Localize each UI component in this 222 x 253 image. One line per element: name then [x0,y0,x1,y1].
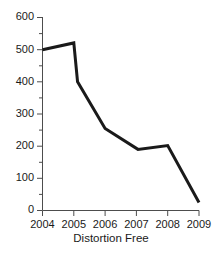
x-tick-label: 2007 [124,218,148,230]
y-tick-label: 600 [16,10,34,22]
x-axis-ticks [43,211,200,217]
y-tick-label: 100 [16,171,34,183]
line-chart: 600 500 400 300 200 100 0 2004 2005 2006… [0,0,222,253]
y-tick-label: 200 [16,139,34,151]
y-tick-label: 500 [16,43,34,55]
data-series-line [43,43,200,203]
x-tick-label: 2004 [30,218,54,230]
x-tick-label: 2009 [187,218,211,230]
x-tick-label: 2005 [62,218,86,230]
y-tick-label: 300 [16,107,34,119]
y-tick-label: 400 [16,75,34,87]
y-axis-tick-labels: 600 500 400 300 200 100 0 [16,10,34,215]
x-tick-label: 2008 [155,218,179,230]
x-axis-tick-labels: 2004 2005 2006 2007 2008 2009 [30,218,211,230]
plot-area: 600 500 400 300 200 100 0 2004 2005 2006… [0,0,222,232]
x-axis-title: Distortion Free [0,232,222,244]
y-tick-label: 0 [28,203,34,215]
x-tick-label: 2006 [93,218,117,230]
y-axis-major-ticks [37,18,43,211]
